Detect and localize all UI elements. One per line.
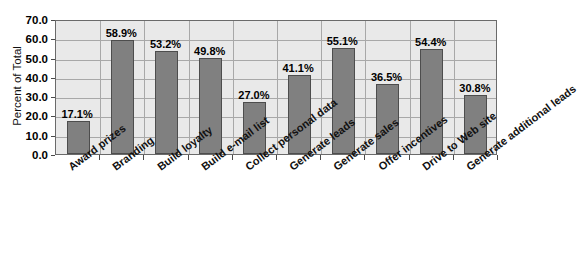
gridline-vertical: [100, 21, 101, 154]
bar: [155, 51, 178, 154]
x-axis-tick-mark: [453, 155, 454, 160]
x-axis-tick-mark: [364, 155, 365, 160]
gridline-vertical: [410, 21, 411, 154]
x-axis-tick-mark: [99, 155, 100, 160]
x-axis-tick-mark: [143, 155, 144, 160]
gridline-vertical: [454, 21, 455, 154]
bar-value-label: 53.2%: [150, 38, 181, 50]
x-axis-tick-mark: [276, 155, 277, 160]
x-axis-tick-mark: [320, 155, 321, 160]
y-axis-tick-mark: [51, 155, 55, 156]
y-axis-tick-mark: [51, 78, 55, 79]
y-axis-tick-label: 50.0: [26, 53, 48, 65]
bar-value-label: 17.1%: [61, 108, 92, 120]
y-axis-tick-mark: [51, 20, 55, 21]
y-axis-tick-mark: [51, 39, 55, 40]
y-axis-tick-label: 0.0: [32, 149, 48, 161]
x-axis-tick-mark: [497, 155, 498, 160]
gridline-vertical: [233, 21, 234, 154]
gridline-vertical: [189, 21, 190, 154]
y-axis-tick-mark: [51, 136, 55, 137]
y-axis-title: Percent of Total: [11, 11, 23, 161]
bar-value-label: 49.8%: [194, 45, 225, 57]
gridline-vertical: [365, 21, 366, 154]
y-axis-tick-mark: [51, 97, 55, 98]
y-axis-tick-label: 30.0: [26, 91, 48, 103]
y-axis-tick-label: 40.0: [26, 72, 48, 84]
y-axis-tick-label: 70.0: [26, 14, 48, 26]
bar-value-label: 55.1%: [327, 35, 358, 47]
gridline-vertical: [321, 21, 322, 154]
y-axis-tick-label: 10.0: [26, 130, 48, 142]
y-axis-tick-mark: [51, 116, 55, 117]
bar-value-label: 27.0%: [238, 89, 269, 101]
y-axis-tick-label: 60.0: [26, 33, 48, 45]
gridline-vertical: [277, 21, 278, 154]
y-axis-tick-mark: [51, 59, 55, 60]
bar-value-label: 54.4%: [415, 36, 446, 48]
bar-value-label: 30.8%: [459, 82, 490, 94]
gridline-vertical: [144, 21, 145, 154]
x-axis-tick-mark: [188, 155, 189, 160]
bar-value-label: 58.9%: [106, 27, 137, 39]
bar-value-label: 41.1%: [282, 62, 313, 74]
bar-value-label: 36.5%: [371, 71, 402, 83]
x-axis-tick-mark: [409, 155, 410, 160]
y-axis-tick-label: 20.0: [26, 110, 48, 122]
x-axis-tick-mark: [232, 155, 233, 160]
